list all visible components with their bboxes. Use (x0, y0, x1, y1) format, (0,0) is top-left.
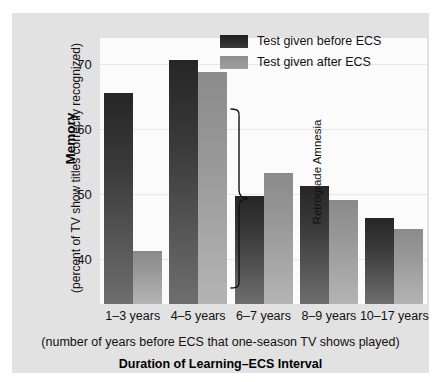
x-tick-label: 6–7 years (236, 309, 291, 323)
x-axis-subtitle: (number of years before ECS that one-sea… (12, 335, 429, 349)
bar-before-ecs[interactable] (104, 93, 133, 304)
bar-after-ecs[interactable] (133, 251, 162, 304)
legend-label: Test given before ECS (257, 34, 381, 48)
legend-item[interactable]: Test given before ECS (220, 34, 381, 48)
x-tick-label: 10–17 years (360, 309, 429, 323)
bar-before-ecs[interactable] (300, 186, 329, 304)
chart-legend: Test given before ECSTest given after EC… (220, 34, 381, 69)
x-tick-label: 8–9 years (301, 309, 356, 323)
y-tick-label: 40 (77, 251, 92, 266)
legend-item[interactable]: Test given after ECS (220, 55, 381, 69)
x-axis-title: Duration of Learning–ECS Interval (12, 357, 429, 371)
chart-figure: Memory (percent of TV show titles correc… (0, 0, 441, 382)
y-axis-ticks: 40506070 (12, 13, 100, 373)
y-tick-label: 50 (77, 186, 92, 201)
y-tick-label: 60 (77, 121, 92, 136)
legend-swatch-icon (220, 56, 248, 69)
plot-area: Retrograde Amnesia (100, 38, 427, 304)
bar-after-ecs[interactable] (394, 229, 423, 304)
bars-layer (100, 38, 427, 304)
bar-before-ecs[interactable] (235, 196, 264, 304)
bar-group (365, 38, 423, 304)
x-axis-tick-labels: 1–3 years4–5 years6–7 years8–9 years10–1… (100, 309, 427, 327)
x-tick-label: 1–3 years (105, 309, 160, 323)
bar-before-ecs[interactable] (365, 218, 394, 304)
bar-after-ecs[interactable] (329, 200, 358, 304)
bar-before-ecs[interactable] (169, 60, 198, 304)
legend-label: Test given after ECS (257, 55, 371, 69)
chart-panel: Memory (percent of TV show titles correc… (12, 13, 429, 373)
bar-group (104, 38, 162, 304)
x-tick-label: 4–5 years (171, 309, 226, 323)
bar-group (235, 38, 293, 304)
bar-after-ecs[interactable] (264, 173, 293, 304)
y-tick-label: 70 (77, 56, 92, 71)
legend-swatch-icon (220, 35, 248, 48)
bar-group (300, 38, 358, 304)
bar-after-ecs[interactable] (198, 72, 227, 304)
bar-group (169, 38, 227, 304)
